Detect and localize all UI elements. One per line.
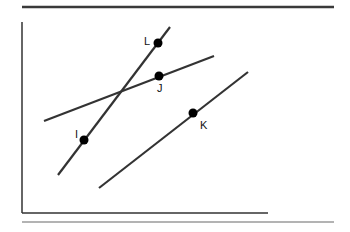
line-J bbox=[44, 56, 214, 121]
label-K: K bbox=[200, 119, 208, 131]
line-K bbox=[99, 72, 248, 188]
point-K bbox=[189, 109, 198, 118]
point-I bbox=[80, 136, 89, 145]
point-J bbox=[155, 72, 164, 81]
label-L: L bbox=[144, 35, 150, 47]
point-L bbox=[154, 39, 163, 48]
geometry-diagram: L J I K bbox=[0, 0, 350, 232]
label-J: J bbox=[157, 82, 163, 94]
line-IL bbox=[58, 27, 170, 175]
label-I: I bbox=[75, 128, 78, 140]
